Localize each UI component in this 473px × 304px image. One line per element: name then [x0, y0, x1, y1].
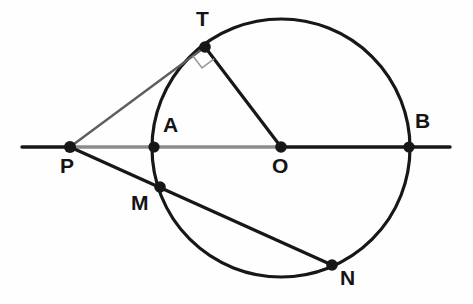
point-dot-b — [403, 141, 414, 152]
point-label-m: M — [131, 192, 149, 213]
point-dot-p — [64, 141, 76, 153]
point-dot-t — [199, 41, 211, 53]
point-label-p: P — [60, 155, 74, 176]
point-dot-n — [326, 259, 338, 271]
point-label-t: T — [196, 8, 209, 29]
diagram-canvas — [0, 0, 473, 304]
point-dot-m — [154, 181, 166, 193]
geometry-figure: PATOBMN — [0, 0, 473, 304]
point-label-b: B — [415, 110, 430, 131]
point-label-n: N — [340, 267, 355, 288]
point-label-o: O — [272, 155, 288, 176]
point-label-a: A — [163, 114, 178, 135]
point-dot-a — [148, 141, 159, 152]
point-dot-o — [275, 141, 287, 153]
